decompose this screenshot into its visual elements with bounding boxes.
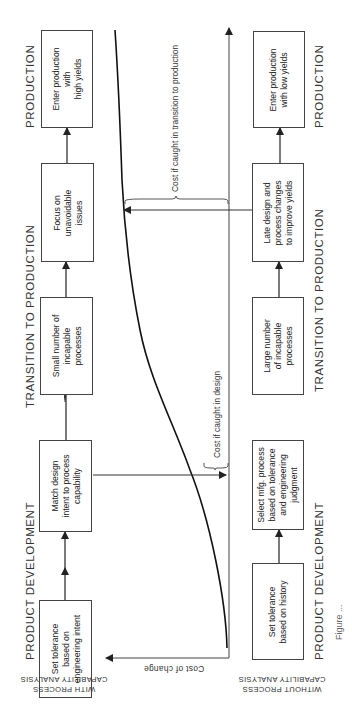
box-with-4: Focus on unavoidable issues (41, 163, 94, 262)
row-label-with: WITH PROCESS CAPABILITY ANALYSIS (8, 674, 120, 694)
box-with-2: Match design intent to process capabilit… (39, 440, 92, 532)
phase-bottom-product-development: PRODUCT DEVELOPMENT (313, 502, 325, 660)
box-without-3: Large number of incapable processes (252, 297, 304, 395)
annotation-cost-transition: Cost if caught in transition to producti… (170, 45, 180, 192)
brace-transition (125, 196, 228, 204)
annotation-cost-design: Cost if caught in design (212, 371, 222, 458)
phase-bottom-production: PRODUCTION (313, 45, 325, 128)
axis-label-cost-of-change: Cost of change (134, 664, 214, 674)
row-label-without: WITHOUT PROCESS CAPABILITY ANALYSIS (226, 674, 338, 694)
phase-bottom-transition: TRANSITION TO PRODUCTION (313, 209, 325, 392)
box-without-5: Enter production with low yields (253, 31, 305, 128)
brace-design (204, 463, 228, 470)
phase-top-transition: TRANSITION TO PRODUCTION (24, 225, 36, 408)
figure-caption: Figure ... (334, 604, 344, 640)
phase-top-production: PRODUCTION (24, 45, 36, 128)
box-without-4: Late design and process changes to impro… (252, 163, 304, 262)
box-without-1: Set tolerance based on history (252, 563, 304, 660)
box-without-2: Select mfg. process based on tolerance a… (252, 440, 304, 530)
box-with-5: Enter production with high yields (41, 30, 93, 128)
box-with-3: Small number of incapable processes (40, 297, 93, 395)
phase-top-product-development: PRODUCT DEVELOPMENT (24, 502, 36, 660)
